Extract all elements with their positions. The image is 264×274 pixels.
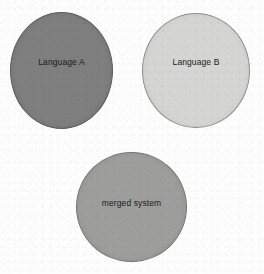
diagram-canvas: Language A Language B merged system [0, 0, 264, 274]
node-language-b-label: Language B [173, 58, 220, 67]
node-language-b[interactable]: Language B [142, 13, 250, 128]
node-language-a-label: Language A [38, 58, 84, 67]
node-merged-system[interactable]: merged system [76, 152, 187, 262]
node-merged-system-label: merged system [102, 199, 161, 208]
node-language-a[interactable]: Language A [10, 12, 113, 129]
